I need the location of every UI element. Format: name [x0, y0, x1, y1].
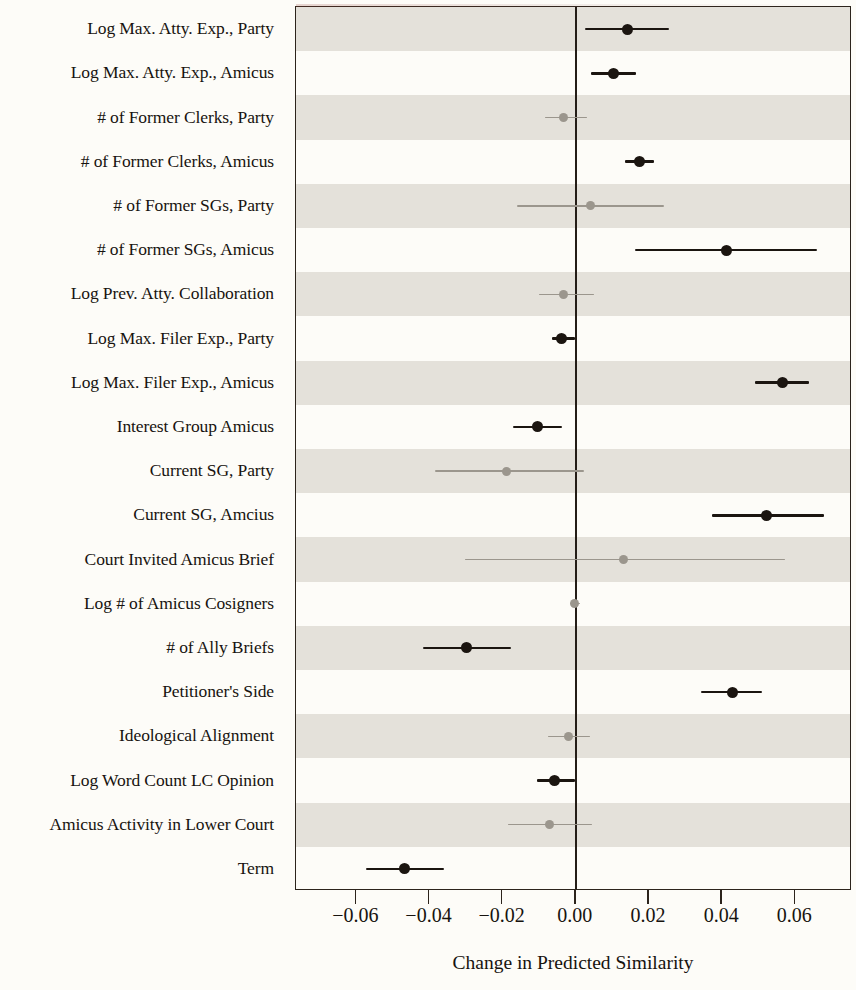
y-axis-label: Log # of Amicus Cosigners	[0, 593, 274, 613]
point-estimate-marker	[556, 333, 567, 344]
x-axis-title: Change in Predicted Similarity	[295, 952, 851, 974]
point-estimate-marker	[721, 245, 732, 256]
y-axis-label: Log Max. Atty. Exp., Party	[0, 18, 274, 38]
x-axis-tick-label: −0.04	[405, 904, 451, 927]
y-axis-label: Amicus Activity in Lower Court	[0, 814, 274, 834]
x-axis-tick	[355, 890, 357, 904]
y-axis-label: Log Word Count LC Opinion	[0, 770, 274, 790]
x-axis-tick	[720, 890, 722, 904]
zero-reference-line	[575, 7, 577, 889]
y-axis-label: # of Former Clerks, Amicus	[0, 151, 274, 171]
x-axis-tick-label: 0.02	[630, 904, 665, 927]
x-axis-tick-label: −0.02	[479, 904, 525, 927]
x-axis-tick	[794, 890, 796, 904]
row-band	[296, 626, 850, 670]
y-axis-label: Current SG, Party	[0, 460, 274, 480]
y-axis-label: # of Former SGs, Amicus	[0, 239, 274, 259]
y-axis-label: Term	[0, 858, 274, 878]
x-axis-tick	[428, 890, 430, 904]
point-estimate-marker	[608, 68, 619, 79]
point-estimate-marker	[761, 510, 772, 521]
point-estimate-marker	[777, 377, 788, 388]
x-axis-tick	[647, 890, 649, 904]
y-axis-label: # of Former Clerks, Party	[0, 107, 274, 127]
y-axis-label: # of Former SGs, Party	[0, 195, 274, 215]
y-axis-label: Current SG, Amcius	[0, 504, 274, 524]
x-axis-tick-label: 0.06	[777, 904, 812, 927]
point-estimate-marker	[727, 687, 738, 698]
point-estimate-marker	[502, 467, 511, 476]
point-estimate-marker	[570, 599, 579, 608]
y-axis-label: Log Prev. Atty. Collaboration	[0, 283, 274, 303]
point-estimate-marker	[619, 555, 628, 564]
y-axis-label: Ideological Alignment	[0, 725, 274, 745]
point-estimate-marker	[622, 24, 633, 35]
point-estimate-marker	[532, 421, 543, 432]
x-axis-tick	[574, 890, 576, 904]
x-axis: −0.06−0.04−0.020.000.020.040.06	[295, 890, 851, 936]
x-axis-tick-label: 0.04	[704, 904, 739, 927]
y-axis-label: Log Max. Filer Exp., Party	[0, 328, 274, 348]
y-axis-label-column: Log Max. Atty. Exp., PartyLog Max. Atty.…	[0, 6, 282, 890]
x-axis-tick-label: −0.06	[332, 904, 378, 927]
point-estimate-marker	[559, 290, 568, 299]
y-axis-label: Court Invited Amicus Brief	[0, 549, 274, 569]
y-axis-label: Interest Group Amicus	[0, 416, 274, 436]
coefficient-plot-figure: Log Max. Atty. Exp., PartyLog Max. Atty.…	[0, 0, 856, 990]
x-axis-tick-label: 0.00	[557, 904, 592, 927]
row-band	[296, 7, 850, 51]
y-axis-label: # of Ally Briefs	[0, 637, 274, 657]
point-estimate-marker	[634, 156, 645, 167]
y-axis-label: Log Max. Filer Exp., Amicus	[0, 372, 274, 392]
point-estimate-marker	[549, 775, 560, 786]
point-estimate-marker	[399, 863, 410, 874]
y-axis-label: Log Max. Atty. Exp., Amicus	[0, 62, 274, 82]
x-axis-tick	[501, 890, 503, 904]
plot-panel	[295, 6, 851, 890]
y-axis-label: Petitioner's Side	[0, 681, 274, 701]
